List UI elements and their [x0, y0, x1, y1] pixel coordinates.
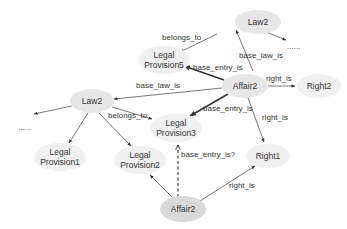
node-label: Legal — [154, 50, 175, 60]
node-lp3: LegalProvision3 — [150, 114, 202, 142]
node-affair2-mid: Affair2 — [222, 74, 268, 98]
node-label: Right2 — [307, 81, 332, 91]
node-label: Provision3 — [156, 128, 196, 138]
node-label: Provision1 — [40, 157, 80, 167]
edge-unlabeled — [69, 113, 88, 143]
edge-label: base_law_is — [136, 81, 180, 90]
edge-label: belongs_to — [162, 33, 202, 42]
edge-label: base_entry_is — [203, 104, 253, 113]
node-label: Affair2 — [233, 81, 258, 91]
node-label: Legal — [50, 147, 71, 157]
edge-label: base_entry_is? — [181, 150, 236, 159]
node-law2-top: Law2 — [235, 10, 281, 34]
node-label: Legal — [166, 118, 187, 128]
node-label: Legal — [130, 150, 151, 160]
edge-unlabeled — [34, 106, 72, 114]
node-label: Provision5 — [144, 60, 184, 70]
node-affair2-bottom: Affair2 — [160, 196, 206, 222]
node-label: Affair2 — [171, 204, 196, 214]
edge-label: right_is — [266, 74, 292, 83]
edge-label: right_is — [229, 181, 255, 190]
node-label: Right1 — [256, 151, 281, 161]
node-label: Law2 — [82, 96, 103, 106]
node-law2-left: Law2 — [70, 89, 114, 113]
node-label: Law2 — [248, 17, 269, 27]
ellipsis-mark: ...... — [18, 123, 31, 132]
edge-label: base_law_is — [239, 51, 283, 60]
node-lp2: LegalProvision2 — [114, 146, 166, 174]
ellipsis-mark: ...... — [287, 42, 300, 51]
graph-canvas: belongs_tobase_law_isbase_entry_isright_… — [0, 0, 347, 229]
edge-unlabeled — [150, 175, 172, 197]
node-right2: Right2 — [297, 74, 341, 98]
knowledge-graph-diagram: belongs_tobase_law_isbase_entry_isright_… — [0, 0, 347, 229]
edge-label: right_is — [262, 113, 288, 122]
edge-label: belongs_to — [108, 111, 148, 120]
edge-label: base_entry_is — [193, 63, 243, 72]
node-right1: Right1 — [246, 144, 290, 168]
node-label: Provision2 — [120, 160, 160, 170]
node-lp5: LegalProvision5 — [138, 46, 190, 74]
node-lp1: LegalProvision1 — [34, 143, 86, 171]
